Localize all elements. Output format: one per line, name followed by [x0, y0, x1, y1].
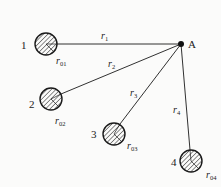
distance-line-r4 — [181, 44, 190, 150]
radius-label-r03: r03 — [127, 140, 137, 152]
diagram-svg: A 1 2 3 4 r01 r02 r03 r04 r1 r2 r3 r4 — [0, 0, 221, 187]
circle-label-1: 1 — [21, 39, 27, 51]
distance-label-r1: r1 — [101, 30, 108, 42]
circle-label-2: 2 — [29, 98, 35, 110]
electrode-circle-1 — [35, 33, 57, 55]
diagram-canvas: A 1 2 3 4 r01 r02 r03 r04 r1 r2 r3 r4 — [0, 0, 221, 187]
distance-label-r3: r3 — [130, 87, 137, 99]
radius-label-r01: r01 — [56, 55, 66, 67]
circle-label-4: 4 — [171, 156, 177, 168]
distance-line-r2 — [61, 44, 181, 94]
electrode-circle-3 — [103, 123, 125, 145]
point-a-label: A — [188, 38, 196, 50]
radius-label-r04: r04 — [206, 169, 217, 181]
distance-label-r4: r4 — [173, 104, 181, 116]
point-a-dot — [178, 41, 184, 47]
electrode-circle-2 — [40, 88, 62, 110]
distance-line-r3 — [120, 44, 181, 124]
circle-label-3: 3 — [91, 128, 97, 140]
distance-label-r2: r2 — [108, 58, 115, 70]
electrode-circle-4 — [180, 150, 202, 172]
radius-label-r02: r02 — [55, 115, 65, 127]
